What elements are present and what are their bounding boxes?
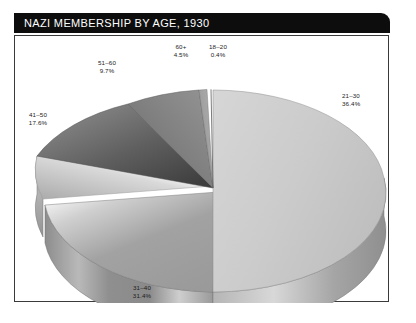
slice-label-21-30-value: 36.4% <box>342 100 382 108</box>
pie-chart-stage: 60+ 4.5% 18–20 0.4% 51–60 9.7% 41–50 17.… <box>15 36 390 303</box>
slice-label-51-60-value: 9.7% <box>90 67 124 75</box>
chart-title-bar: NAZI MEMBERSHIP BY AGE, 1930 <box>14 13 390 33</box>
slice-label-51-60-name: 51–60 <box>90 59 124 67</box>
slice-label-31-40-value: 31.4% <box>123 292 161 300</box>
slice-label-18-20-name: 18–20 <box>201 43 235 51</box>
pie-chart-svg <box>15 36 390 303</box>
slice-label-60-plus: 60+ 4.5% <box>166 43 196 59</box>
slice-label-60-plus-name: 60+ <box>166 43 196 51</box>
slice-label-31-40: 31–40 31.4% <box>123 284 161 300</box>
slice-label-51-60: 51–60 9.7% <box>90 59 124 75</box>
slice-label-41-50-name: 41–50 <box>20 111 56 119</box>
slice-label-18-20-value: 0.4% <box>201 51 235 59</box>
slice-label-41-50-value: 17.6% <box>20 119 56 127</box>
slice-label-21-30: 21–30 36.4% <box>342 92 382 108</box>
slice-label-41-50: 41–50 17.6% <box>20 111 56 127</box>
slice-label-60-plus-value: 4.5% <box>166 51 196 59</box>
pie-slice-21-30 <box>213 90 386 303</box>
page-title: NAZI MEMBERSHIP BY AGE, 1930 <box>24 17 209 29</box>
slice-label-21-30-name: 21–30 <box>342 92 382 100</box>
chart-panel: 60+ 4.5% 18–20 0.4% 51–60 9.7% 41–50 17.… <box>14 35 389 302</box>
slice-label-31-40-name: 31–40 <box>123 284 161 292</box>
slice-label-18-20: 18–20 0.4% <box>201 43 235 59</box>
chart-figure: NAZI MEMBERSHIP BY AGE, 1930 <box>0 0 416 323</box>
